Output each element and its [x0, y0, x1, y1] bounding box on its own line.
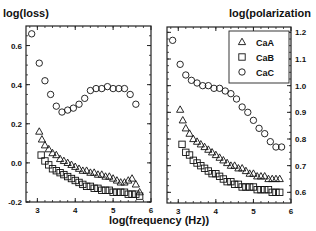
data-point-caa: [106, 173, 113, 179]
y-tick-label: 0.8: [295, 135, 307, 144]
data-point-cac: [183, 72, 189, 78]
y-tick-label: 0.0: [11, 159, 23, 168]
data-point-cac: [36, 60, 42, 66]
data-point-cab: [246, 184, 252, 190]
data-point-cab: [53, 168, 59, 174]
data-point-cab: [68, 175, 74, 181]
data-point-cac: [245, 109, 251, 115]
data-point-caa: [177, 106, 184, 112]
polarization-panel: 34560.60.70.80.91.01.11.2 log(polarizati…: [167, 7, 311, 216]
data-point-cac: [239, 104, 245, 110]
data-point-cac: [177, 61, 183, 67]
x-tick-label: 5: [251, 207, 256, 216]
data-point-caa: [98, 171, 105, 177]
y-tick-label: 0.4: [11, 81, 23, 90]
data-point-cab: [61, 171, 67, 177]
y-tick-label: 0.6: [295, 188, 307, 197]
data-point-cab: [194, 160, 200, 166]
data-point-cab: [224, 178, 230, 184]
data-point-cab: [254, 186, 260, 192]
data-point-cab: [261, 186, 267, 192]
data-point-cab: [239, 184, 245, 190]
x-axis-title: log(frequency (Hz)): [109, 214, 210, 226]
data-point-caa: [136, 188, 143, 194]
y-tick-label: 0.9: [295, 108, 307, 117]
data-point-cac: [250, 117, 256, 123]
loss-y-axis-title: log(loss): [3, 7, 49, 19]
loss-tick-labels: 3456-0.20.00.20.40.6: [8, 42, 154, 215]
data-point-cab: [49, 166, 55, 172]
data-point-caa: [128, 175, 135, 181]
data-point-cab: [243, 184, 249, 190]
data-point-cab: [273, 189, 279, 195]
polarization-y-axis-title: log(polarization: [229, 7, 311, 19]
data-point-cab: [235, 181, 241, 187]
data-point-cab: [228, 178, 234, 184]
y-tick-label: -0.2: [8, 198, 22, 207]
data-point-caa: [38, 136, 45, 142]
data-point-cab: [80, 181, 86, 187]
figure-canvas: 3456-0.20.00.20.40.6 log(loss) 34560.60.…: [0, 0, 316, 231]
data-point-cab: [76, 179, 82, 185]
data-point-cab: [87, 183, 93, 189]
data-point-cab: [117, 189, 123, 195]
data-point-caa: [56, 155, 63, 161]
data-point-cac: [228, 90, 234, 96]
data-point-cab: [265, 186, 271, 192]
data-point-cab: [102, 187, 108, 193]
y-tick-label: 0.2: [11, 120, 23, 129]
data-point-cab: [179, 141, 185, 147]
data-point-cab: [183, 149, 189, 155]
data-point-caa: [36, 128, 43, 134]
y-tick-label: 0.7: [295, 162, 307, 171]
data-point-caa: [182, 125, 189, 131]
legend-label-cac: CaC: [256, 68, 275, 78]
y-tick-label: 1.1: [295, 55, 307, 64]
data-point-caa: [257, 173, 264, 179]
data-point-cac: [133, 101, 139, 107]
data-point-cab: [121, 189, 127, 195]
data-point-cab: [125, 191, 131, 197]
legend-label-cab: CaB: [256, 53, 275, 63]
data-point-cab: [46, 162, 52, 168]
data-point-caa: [83, 167, 90, 173]
data-point-caa: [269, 175, 276, 181]
loss-data-points: [28, 31, 143, 200]
data-point-cab: [64, 173, 70, 179]
data-point-cab: [110, 189, 116, 195]
data-point-cab: [201, 165, 207, 171]
data-point-cac: [82, 95, 88, 101]
data-point-caa: [179, 117, 186, 123]
data-point-cab: [95, 185, 101, 191]
data-point-cac: [256, 125, 262, 131]
data-point-cab: [72, 177, 78, 183]
data-point-cab: [136, 193, 142, 199]
data-point-cab: [277, 189, 283, 195]
data-point-cab: [106, 187, 112, 193]
data-point-cac: [169, 37, 175, 43]
data-point-cac: [261, 130, 267, 136]
figure: 3456-0.20.00.20.40.6 log(loss) 34560.60.…: [0, 0, 316, 231]
data-point-cac: [267, 138, 273, 144]
data-point-caa: [272, 175, 279, 181]
data-point-cab: [129, 191, 135, 197]
data-point-cac: [47, 91, 53, 97]
data-point-cab: [91, 185, 97, 191]
y-tick-label: 1.0: [295, 82, 307, 91]
data-point-cac: [28, 31, 34, 37]
data-point-cab: [220, 176, 226, 182]
data-point-cab: [258, 186, 264, 192]
data-point-cab: [83, 183, 89, 189]
data-point-cab: [114, 189, 120, 195]
data-point-cab: [205, 168, 211, 174]
data-point-cab: [99, 187, 105, 193]
x-tick-label: 6: [289, 207, 294, 216]
data-point-caa: [49, 149, 56, 155]
data-point-cac: [76, 101, 82, 107]
data-point-cac: [42, 78, 48, 84]
data-point-cab: [57, 169, 63, 175]
legend-label-caa: CaA: [256, 38, 275, 48]
legend: CaACaBCaC: [229, 31, 289, 83]
x-tick-label: 4: [214, 207, 219, 216]
data-point-cab: [216, 173, 222, 179]
